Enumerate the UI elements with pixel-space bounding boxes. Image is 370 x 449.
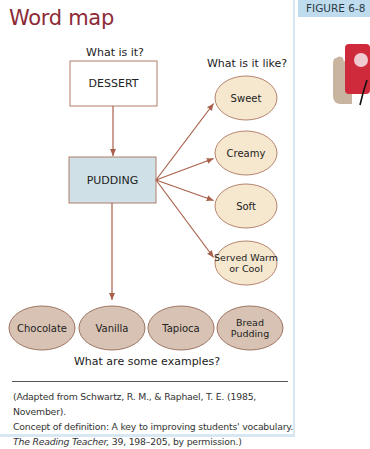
category-label: DESSERT xyxy=(89,77,139,90)
citation-line-1: (Adapted from Schwartz, R. M., & Raphael… xyxy=(13,389,298,419)
citation: (Adapted from Schwartz, R. M., & Raphael… xyxy=(13,389,298,449)
figure-photo-thumbnail xyxy=(333,44,370,105)
property-label: Sweet xyxy=(231,93,262,104)
property-ovals: SweetCreamySoftServed Warmor Cool xyxy=(156,76,278,285)
citation-journal: The Reading Teacher, xyxy=(13,436,109,447)
question-what-is-it: What is it? xyxy=(86,46,144,59)
example-label: Chocolate xyxy=(17,323,67,334)
arrow-concept-to-property xyxy=(156,180,214,258)
example-label: Bread xyxy=(236,317,264,328)
question-what-are-some-examples: What are some examples? xyxy=(74,355,220,368)
arrow-concept-to-property xyxy=(156,104,214,181)
example-label: Vanilla xyxy=(96,323,129,334)
property-label: Soft xyxy=(236,201,256,212)
arrow-concept-to-property xyxy=(156,180,214,201)
question-what-is-it-like: What is it like? xyxy=(207,57,287,70)
citation-details: 39, 198–205, by permission.) xyxy=(109,436,242,447)
property-label: or Cool xyxy=(229,263,263,274)
example-ovals: ChocolateVanillaTapiocaBreadPudding xyxy=(9,306,283,350)
example-label: Tapioca xyxy=(161,323,199,334)
concept-label: PUDDING xyxy=(87,174,139,187)
property-label: Served Warm xyxy=(214,252,278,263)
citation-line-3: The Reading Teacher, 39, 198–205, by per… xyxy=(13,434,298,449)
red-device xyxy=(345,44,370,94)
property-label: Creamy xyxy=(227,148,266,159)
citation-line-2: Concept of definition: A key to improvin… xyxy=(13,419,298,434)
citation-divider xyxy=(12,381,288,382)
device-light xyxy=(354,53,368,67)
example-label: Pudding xyxy=(231,328,269,339)
